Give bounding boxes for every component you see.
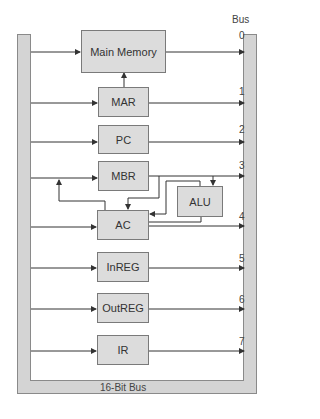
pc-box: PC [98,125,149,154]
alu-box: ALU [177,186,223,217]
bus-caption: 16-Bit Bus [100,382,146,393]
inreg-box: InREG [97,252,149,282]
mbr-box: MBR [98,161,149,191]
outreg-box: OutREG [97,293,149,323]
mar-box: MAR [98,87,149,117]
ir-box: IR [97,335,149,365]
main-memory-box: Main Memory [81,30,166,73]
ac-box: AC [97,210,149,240]
